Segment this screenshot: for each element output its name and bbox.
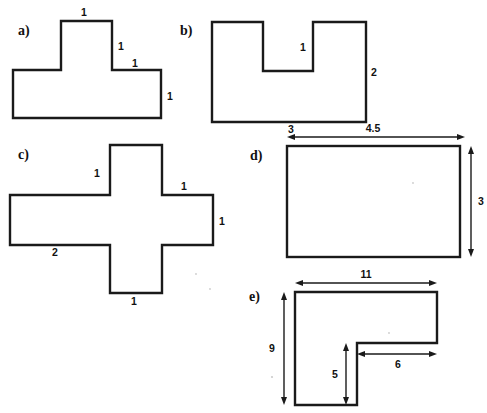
speck — [412, 182, 414, 184]
panel-a-label-stem-right: 1 — [118, 40, 124, 52]
panel-c-label-top-left: 1 — [94, 167, 100, 179]
panel-a-shape — [13, 21, 161, 118]
panel-c-letter: c) — [18, 147, 29, 163]
panel-d-label-height: 3 — [478, 195, 484, 207]
panel-e-label-left-height: 9 — [269, 342, 275, 354]
arrow-head-right-icon — [429, 351, 437, 357]
panel-b: b) 1 2 3 — [180, 22, 377, 135]
arrow-head-up-icon — [468, 146, 474, 154]
panel-a: a) 1 1 1 1 — [13, 6, 173, 118]
panel-e-label-inner-height: 5 — [332, 368, 338, 380]
arrow-head-right-icon — [457, 134, 465, 140]
panel-e-label-top-width: 11 — [360, 268, 371, 280]
panel-a-label-shoulder-right: 1 — [132, 57, 138, 69]
panel-b-label-notch: 1 — [300, 41, 306, 53]
arrow-head-down-icon — [281, 397, 287, 405]
panel-e-left-height-dimension: 9 — [269, 292, 287, 405]
panel-a-label-right-side: 1 — [167, 90, 173, 102]
panel-d-shape — [287, 146, 460, 257]
panel-b-label-right-height: 2 — [371, 66, 377, 78]
panel-e: e) 11 9 5 6 — [249, 268, 437, 405]
panel-e-label-inner-width: 6 — [395, 358, 401, 370]
speck — [195, 273, 197, 275]
panel-c-label-bottom: 1 — [131, 295, 137, 307]
arrow-head-left-icon — [295, 280, 303, 286]
speck — [388, 332, 390, 334]
arrow-head-right-icon — [429, 280, 437, 286]
panel-e-shape — [295, 292, 437, 405]
panel-d: d) 4.5 3 — [250, 122, 484, 257]
panel-a-letter: a) — [18, 23, 30, 39]
panel-e-letter: e) — [249, 289, 260, 305]
arrow-head-down-icon — [468, 249, 474, 257]
panel-a-label-top: 1 — [81, 6, 87, 18]
worksheet-figure: a) 1 1 1 1 b) 1 2 3 c) — [0, 0, 487, 413]
panel-c: c) 1 1 1 2 1 — [10, 145, 225, 307]
panel-d-letter: d) — [250, 148, 263, 164]
panel-e-inner-width-dimension: 6 — [357, 351, 437, 370]
panel-d-height-dimension: 3 — [468, 146, 484, 257]
panel-d-label-width: 4.5 — [366, 122, 381, 134]
panel-b-label-bottom: 3 — [288, 123, 294, 135]
geometry-worksheet-canvas: a) 1 1 1 1 b) 1 2 3 c) — [0, 0, 487, 413]
panel-c-label-top-right: 1 — [181, 180, 187, 192]
panel-c-label-bottom-left: 2 — [52, 246, 58, 258]
panel-b-letter: b) — [180, 23, 193, 39]
panel-d-width-dimension: 4.5 — [287, 122, 465, 140]
panel-c-shape — [10, 145, 213, 293]
panel-c-label-right-side: 1 — [219, 215, 225, 227]
speck — [209, 288, 211, 290]
speck — [271, 376, 273, 378]
panel-e-top-width-dimension: 11 — [295, 268, 437, 286]
panel-b-shape — [212, 22, 366, 122]
arrow-head-up-icon — [281, 292, 287, 300]
